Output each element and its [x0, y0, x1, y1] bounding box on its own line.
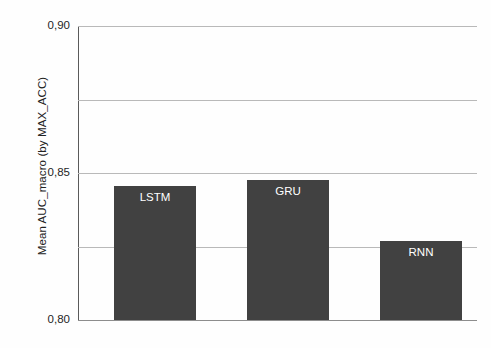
plot-area: 0,900,850,800,750,70LSTMGRURNN	[78, 26, 477, 320]
gridline: 0,80	[78, 173, 477, 174]
bar-rnn[interactable]: RNN	[380, 241, 462, 320]
gridline: 0,70	[78, 320, 477, 321]
bar-label: RNN	[380, 247, 462, 259]
y-axis-tick-label: 0,90	[28, 20, 70, 32]
bar-label: GRU	[247, 186, 329, 198]
bar-gru[interactable]: GRU	[247, 180, 329, 320]
y-axis-tick-label: 0,85	[28, 167, 70, 179]
gridline: 0,85	[78, 100, 477, 101]
bar-lstm[interactable]: LSTM	[114, 186, 196, 320]
bar-label: LSTM	[114, 192, 196, 204]
gridline: 0,90	[78, 26, 477, 27]
y-axis-tick-label: 0,80	[28, 314, 70, 326]
bar-chart: Mean AUC_macro (by MAX_ACC) 0,900,850,80…	[0, 0, 491, 348]
